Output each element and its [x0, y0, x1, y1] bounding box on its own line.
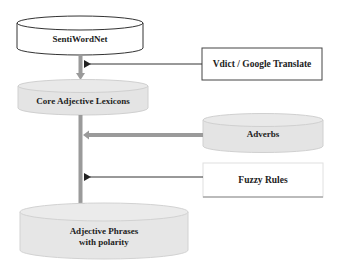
core-lexicons-label: Core Adjective Lexicons	[18, 94, 148, 108]
adjective-phrases-label-line1: Adjective Phrases	[20, 226, 188, 237]
adjective-phrases-label-line2: with polarity	[20, 237, 188, 248]
adverbs-label: Adverbs	[203, 127, 323, 141]
sentiwordnet-label: SentiWordNet	[17, 32, 143, 46]
connector-core-phrases	[76, 115, 85, 210]
fuzzy-rules-label: Fuzzy Rules	[203, 173, 323, 187]
vdict-label: Vdict / Google Translate	[202, 57, 322, 71]
arrow-adverbs	[83, 131, 203, 140]
connector-sentiwordnet-core	[76, 55, 85, 80]
